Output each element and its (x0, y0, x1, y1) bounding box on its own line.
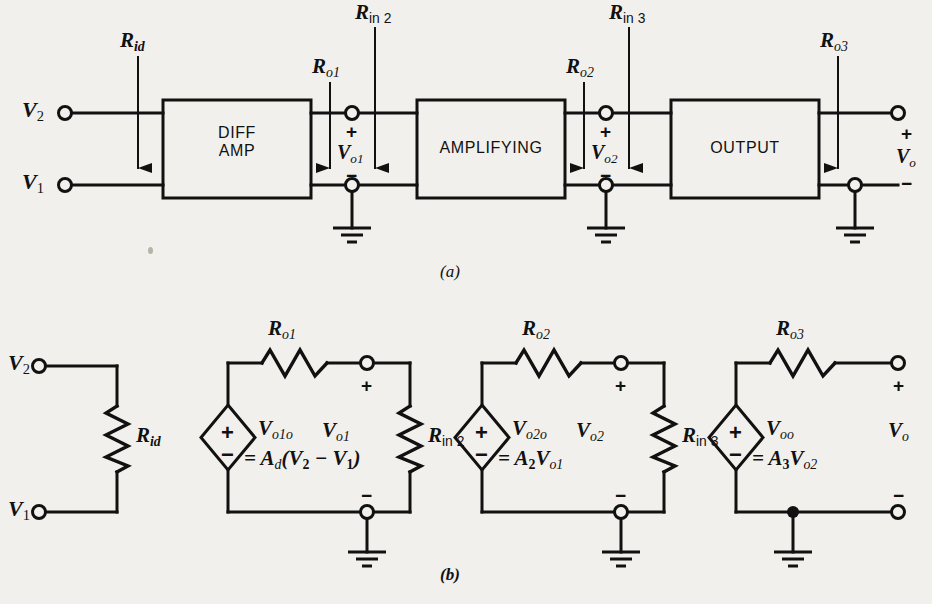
polarity-minus-vo-a: − (901, 174, 912, 193)
label-b-vo2: Vo2 (576, 420, 604, 444)
node-b-vo1-minus (361, 506, 374, 519)
ground-icon (333, 228, 371, 242)
resistor-ro1-zigzag (262, 350, 327, 376)
ground-icon (602, 552, 640, 566)
label-b-ro2: Ro2 (522, 318, 550, 342)
equation-b-vo2o: = A2Vo1 (498, 448, 563, 472)
block-label-amplifying: AMPLIFYING (417, 139, 565, 157)
label-b-ro3: Ro3 (776, 318, 804, 342)
label-rin2-a: Rin 2 (355, 2, 391, 26)
arrowhead-ro3 (824, 163, 838, 173)
label-b-ro1: Ro1 (268, 318, 296, 342)
arrowhead-rid (138, 163, 152, 173)
label-b-rin3: Rin 3 (682, 425, 718, 449)
polarity-minus-b-vo1: − (361, 486, 372, 505)
label-vo2-a: Vo2 (591, 142, 618, 165)
polarity-plus-vo-a: + (901, 124, 912, 143)
polarity-plus-b-vo: + (893, 376, 904, 395)
terminal-v1 (59, 179, 72, 192)
node-vo-minus (849, 179, 862, 192)
label-vo1-a: Vo1 (337, 142, 364, 165)
resistor-rid-zigzag (106, 406, 128, 472)
ground-icon (587, 228, 625, 242)
polarity-minus-b-vo2: − (615, 486, 626, 505)
polarity-minus-vo2: − (600, 166, 611, 185)
node-b-vo2-plus (615, 357, 628, 370)
pointer-arrowheads (138, 163, 838, 173)
label-v2-a: V2 (22, 99, 44, 124)
caption-a: (a) (440, 262, 460, 282)
label-b-vo: Vo (888, 420, 909, 444)
terminal-b-vo-minus (892, 506, 905, 519)
label-ro3-a: Ro3 (820, 30, 848, 54)
ground-icon (348, 552, 386, 566)
label-b-vo1o: Vo1o (258, 418, 293, 442)
resistor-rin2-zigzag (399, 406, 421, 472)
polarity-plus-vo2: + (600, 122, 611, 141)
block-label-diff-amp: DIFF AMP (163, 124, 311, 161)
label-b-vo2o: Vo2o (512, 418, 547, 442)
equation-b-voo: = A3Vo2 (752, 448, 817, 472)
polarity-plus-b-vo1: + (361, 376, 372, 395)
terminal-b-v2 (33, 360, 46, 373)
resistor-ro2-zigzag (516, 350, 581, 376)
label-rin3-a: Rin 3 (609, 2, 645, 26)
terminal-b-v1 (33, 506, 46, 519)
label-v1-a: V1 (22, 171, 44, 196)
ground-icon (774, 552, 812, 566)
caption-b: (b) (440, 565, 460, 585)
label-b-rin2: Rin 2 (428, 425, 464, 449)
ground-icon (836, 228, 874, 242)
label-ro1-a: Ro1 (312, 56, 340, 80)
source-plus-vo1o: + (221, 422, 234, 444)
figure-canvas: V2 V1 Rid Ro1 Rin 2 Ro2 Rin 3 Ro3 DIFF A… (0, 0, 932, 604)
polarity-minus-b-vo: − (893, 486, 904, 505)
arrowhead-rin2 (375, 163, 389, 173)
label-vo-a: Vo (896, 146, 916, 169)
source-minus-vo2o: − (475, 444, 488, 466)
node-b-vo1-plus (361, 357, 374, 370)
label-b-rid: Rid (136, 425, 161, 449)
equation-b-vo1o: = Ad(V2 − V1) (244, 448, 361, 472)
ground-symbols-a (333, 228, 874, 242)
terminal-v2 (59, 107, 72, 120)
polarity-minus-vo1: − (346, 166, 357, 185)
label-b-voo: Voo (766, 418, 794, 442)
node-b-vo2-minus (615, 506, 628, 519)
source-minus-vo1o: − (221, 444, 234, 466)
node-vo1-plus (346, 107, 359, 120)
resistor-ro3-zigzag (770, 350, 835, 376)
source-plus-voo: + (729, 422, 742, 444)
polarity-plus-b-vo2: + (615, 376, 626, 395)
arrowhead-ro2 (570, 163, 584, 173)
arrowhead-rin3 (629, 163, 643, 173)
label-rid-a: Rid (120, 30, 145, 54)
label-b-v2: V2 (8, 352, 30, 377)
block-label-output: OUTPUT (671, 139, 819, 157)
junction-dot-s3 (787, 506, 799, 518)
ground-symbols-b (348, 552, 812, 566)
resistor-rin3-zigzag (653, 406, 675, 472)
source-plus-vo2o: + (475, 422, 488, 444)
label-b-vo1: Vo1 (322, 420, 350, 444)
label-b-v1: V1 (8, 498, 30, 523)
node-vo2-plus (600, 107, 613, 120)
terminal-vo-plus (892, 107, 905, 120)
source-minus-voo: − (729, 444, 742, 466)
label-ro2-a: Ro2 (566, 56, 594, 80)
page-speck (148, 247, 153, 254)
polarity-plus-vo1: + (346, 122, 357, 141)
terminal-b-vo-plus (892, 357, 905, 370)
arrowhead-ro1 (316, 163, 330, 173)
